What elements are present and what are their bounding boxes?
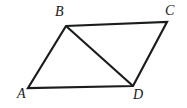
vertex-label-a: A bbox=[17, 87, 26, 101]
geometry-figure: A B C D bbox=[0, 0, 187, 108]
parallelogram-drawing bbox=[0, 0, 187, 108]
figure-background bbox=[0, 0, 187, 108]
vertex-label-d: D bbox=[133, 88, 143, 102]
vertex-label-b: B bbox=[55, 5, 64, 19]
vertex-label-c: C bbox=[165, 4, 174, 18]
